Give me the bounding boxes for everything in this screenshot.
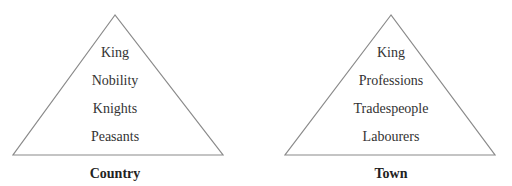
triangle-shape — [0, 0, 256, 186]
town-pyramid: King Professions Tradespeople Labourers … — [256, 0, 512, 186]
pyramid-caption: Country — [0, 166, 243, 182]
level-label: Knights — [0, 101, 243, 117]
country-pyramid: King Nobility Knights Peasants Country — [0, 0, 256, 186]
level-label: Nobility — [0, 73, 243, 89]
level-label: King — [263, 45, 512, 61]
level-label: Professions — [263, 73, 512, 89]
triangle-shape — [256, 0, 512, 186]
level-label: Labourers — [263, 129, 512, 145]
level-label: King — [0, 45, 243, 61]
pyramid-caption: Town — [263, 166, 512, 182]
level-label: Peasants — [0, 129, 243, 145]
level-label: Tradespeople — [263, 101, 512, 117]
